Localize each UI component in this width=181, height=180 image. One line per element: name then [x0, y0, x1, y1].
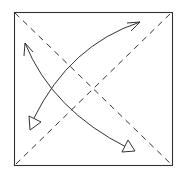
fold-arrow-tl-to-br	[24, 43, 135, 152]
open-arrowhead-icon	[24, 43, 33, 56]
arrow-curve	[34, 22, 140, 118]
crease-diagonal-tl-br	[15, 13, 172, 165]
fold-arrow-tr-to-bl	[29, 22, 140, 130]
hollow-triangle-arrowhead-icon	[29, 116, 41, 130]
crease-diagonal-bl-tr	[16, 12, 172, 164]
origami-diagram: Square with two dashed diagonal valley-f…	[0, 0, 181, 180]
paper-square	[15, 13, 173, 166]
diagram-canvas	[0, 0, 181, 180]
